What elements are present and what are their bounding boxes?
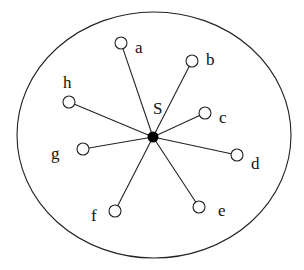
edge-s-g <box>89 137 153 148</box>
node-label-h: h <box>63 73 72 92</box>
edge-s-f <box>118 137 153 206</box>
node-label-e: e <box>218 201 226 220</box>
edge-s-h <box>75 104 153 137</box>
node-e <box>193 201 205 213</box>
node-label-c: c <box>219 108 227 127</box>
node-h <box>63 96 75 108</box>
center-label: S <box>153 99 162 118</box>
node-label-d: d <box>251 154 260 173</box>
node-label-b: b <box>206 50 215 69</box>
edge-s-e <box>153 137 196 202</box>
node-c <box>199 107 211 119</box>
node-label-g: g <box>51 144 60 163</box>
node-label-a: a <box>135 38 143 57</box>
star-topology-diagram: abcdefgh S <box>0 0 304 270</box>
node-g <box>77 143 89 155</box>
center-node-s <box>148 132 159 143</box>
node-d <box>231 149 243 161</box>
node-f <box>109 205 121 217</box>
edges <box>75 49 232 206</box>
edge-s-c <box>153 116 200 137</box>
edge-s-a <box>123 49 153 137</box>
node-label-f: f <box>91 206 97 225</box>
node-a <box>115 37 127 49</box>
edge-s-d <box>153 137 231 154</box>
node-b <box>186 55 198 67</box>
